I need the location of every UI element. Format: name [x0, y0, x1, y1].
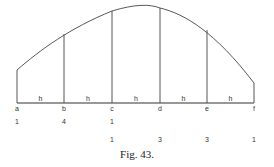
weights: 1411331 — [15, 118, 256, 143]
point-label-a: a — [15, 105, 19, 112]
figure-caption: Fig. 43. — [120, 148, 154, 160]
interval-label-h: h — [86, 95, 90, 102]
weight-c2: 1 — [110, 136, 114, 143]
point-label-f: f — [253, 105, 255, 112]
ordinates — [17, 8, 254, 103]
weight-b: 4 — [62, 118, 66, 125]
interval-label-h: h — [134, 95, 138, 102]
weight-c: 1 — [110, 118, 114, 125]
point-label-c: c — [110, 105, 114, 112]
interval-label-h: h — [182, 95, 186, 102]
interval-labels: hhhhh — [39, 95, 233, 102]
interval-label-h: h — [39, 95, 43, 102]
simpson-rule-diagram: hhhhh abcdef 1411331 Fig. 43. — [0, 0, 274, 167]
point-label-d: d — [158, 105, 162, 112]
weight-f: 1 — [252, 136, 256, 143]
curve — [17, 5, 254, 83]
point-label-e: e — [205, 105, 209, 112]
point-label-b: b — [62, 105, 66, 112]
weight-a: 1 — [15, 118, 19, 125]
point-labels: abcdef — [15, 105, 255, 112]
weight-e: 3 — [205, 136, 209, 143]
weight-d: 3 — [158, 136, 162, 143]
interval-label-h: h — [229, 95, 233, 102]
